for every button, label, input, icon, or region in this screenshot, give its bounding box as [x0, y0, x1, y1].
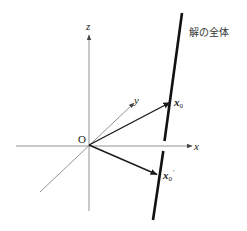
solution-line-lower	[153, 151, 163, 220]
x-axis-label: x	[193, 140, 199, 152]
solution-line-upper	[165, 13, 183, 141]
x0-prime-label: x0′	[162, 168, 175, 183]
origin-label: O	[78, 133, 86, 145]
y-axis	[40, 103, 134, 192]
z-axis-label: z	[85, 20, 91, 32]
solution-set-diagram: z y x O 解の全体 x0 x0′	[0, 0, 247, 231]
solution-set-label: 解の全体	[189, 26, 229, 38]
vector-x0-prime	[89, 145, 157, 175]
y-axis-label: y	[133, 94, 139, 106]
vector-x0	[89, 103, 170, 146]
x0-label: x0	[173, 96, 184, 110]
